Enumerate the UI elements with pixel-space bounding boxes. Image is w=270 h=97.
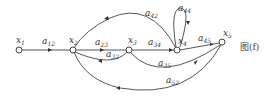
edge-a32 bbox=[75, 52, 127, 60]
label-a42: a42 bbox=[145, 8, 158, 19]
arrow-a12 bbox=[48, 48, 52, 52]
node-x2 bbox=[70, 47, 76, 53]
label-a32: a32 bbox=[106, 49, 119, 60]
arrow-a44 bbox=[186, 21, 190, 25]
arrow-a35 bbox=[194, 60, 198, 65]
node-x1 bbox=[16, 47, 22, 53]
label-a44: a44 bbox=[178, 3, 191, 14]
node-x4 bbox=[174, 47, 180, 53]
label-a23: a23 bbox=[95, 37, 108, 48]
label-x1: x1 bbox=[16, 35, 25, 46]
label-a12: a12 bbox=[42, 36, 55, 47]
signal-flow-graph: x1 x2 x3 x4 x5 a12 a23 a32 a34 a42 a44 a… bbox=[0, 0, 270, 97]
label-a35: a35 bbox=[158, 58, 171, 69]
node-x5 bbox=[219, 39, 225, 45]
arrow-a23 bbox=[100, 48, 104, 52]
node-x3 bbox=[126, 47, 132, 53]
label-a34: a34 bbox=[148, 37, 161, 48]
arrow-a34 bbox=[169, 48, 173, 52]
label-x3: x3 bbox=[128, 35, 137, 46]
label-a45: a45 bbox=[198, 33, 211, 44]
label-x2: x2 bbox=[69, 35, 78, 46]
label-x5: x5 bbox=[223, 28, 232, 39]
arrow-a52 bbox=[116, 86, 120, 90]
figure-caption: 图(f) bbox=[240, 42, 259, 52]
edge-a52 bbox=[74, 45, 221, 90]
label-a52: a52 bbox=[166, 75, 179, 86]
arrow-a42 bbox=[104, 16, 109, 20]
label-x4: x4 bbox=[178, 36, 187, 47]
